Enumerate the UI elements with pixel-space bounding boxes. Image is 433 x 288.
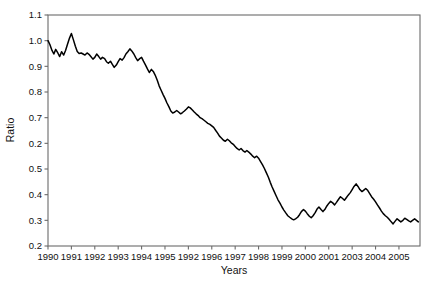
data-line-ratio (48, 33, 418, 223)
y-axis-ticks: 1.11.00.90.80.70.20.50.40.30.2 (29, 9, 48, 251)
y-tick-label: 0.2 (29, 138, 42, 149)
x-tick-label: 2003 (342, 251, 363, 262)
x-tick-label: 1997 (225, 251, 246, 262)
chart-figure: 1.11.00.90.80.70.20.50.40.30.2 199019911… (0, 0, 433, 288)
y-axis-title: Ratio (4, 118, 16, 143)
x-tick-label: 1993 (108, 251, 129, 262)
y-tick-label: 0.9 (29, 61, 42, 72)
plot-area-border (48, 15, 420, 246)
x-tick-label: 1992 (84, 251, 105, 262)
y-tick-label: 0.5 (29, 163, 42, 174)
y-tick-label: 1.1 (29, 9, 42, 20)
x-tick-label: 1992 (178, 251, 199, 262)
chart-frame (48, 15, 420, 246)
data-series-group (48, 33, 418, 223)
line-chart-svg: 1.11.00.90.80.70.20.50.40.30.2 199019911… (0, 0, 433, 288)
x-axis-title: Years (221, 264, 247, 276)
y-tick-label: 0.8 (29, 86, 42, 97)
x-tick-label: 2004 (365, 251, 386, 262)
x-tick-label: 1999 (271, 251, 292, 262)
x-tick-label: 1991 (61, 251, 82, 262)
x-tick-label: 2000 (295, 251, 316, 262)
x-tick-label: 1990 (37, 251, 58, 262)
x-tick-label: 1996 (201, 251, 222, 262)
x-axis-ticks: 1990199119921993199419951992199619971998… (37, 246, 409, 262)
y-tick-label: 0.7 (29, 112, 42, 123)
y-tick-label: 1.0 (29, 35, 42, 46)
x-tick-label: 2005 (388, 251, 409, 262)
x-tick-label: 2001 (318, 251, 339, 262)
y-tick-label: 0.3 (29, 215, 42, 226)
x-tick-label: 1995 (154, 251, 175, 262)
x-tick-label: 1994 (131, 251, 152, 262)
y-tick-label: 0.4 (29, 189, 42, 200)
x-tick-label: 1998 (248, 251, 269, 262)
